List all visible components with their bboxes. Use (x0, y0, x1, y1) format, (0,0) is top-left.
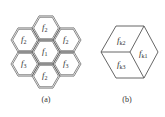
hexagon-cluster: f2f2f2f1f3f3f2 (11, 16, 81, 88)
face-top-label: fk2 (117, 35, 126, 46)
hex-label: f2 (42, 22, 48, 33)
face-left-label: fk3 (117, 59, 126, 70)
caption-b: (b) (122, 95, 132, 104)
hex-cell-center: f1 (32, 40, 60, 64)
figure-canvas: f2f2f2f1f3f3f2 (a) fk2 fk1 fk3 (b) (0, 0, 165, 117)
caption-a: (a) (42, 95, 51, 104)
hex-label: f2 (21, 34, 27, 45)
hex-cell-top: f2 (32, 16, 60, 40)
hex-cell-upper-left: f2 (11, 28, 39, 52)
cube-diagram (101, 26, 158, 78)
hex-label: f3 (21, 58, 27, 69)
hex-label: f2 (42, 70, 48, 81)
hex-label: f3 (63, 58, 69, 69)
hex-cell-upper-right: f2 (53, 28, 81, 52)
cube-edge-top (130, 26, 144, 52)
hex-cell-lower-right: f3 (53, 52, 81, 76)
face-right-label: fk1 (139, 48, 148, 59)
hex-label: f2 (63, 34, 69, 45)
hex-cell-bottom: f2 (32, 64, 60, 88)
hex-cell-lower-left: f3 (11, 52, 39, 76)
hex-label: f1 (42, 46, 48, 57)
